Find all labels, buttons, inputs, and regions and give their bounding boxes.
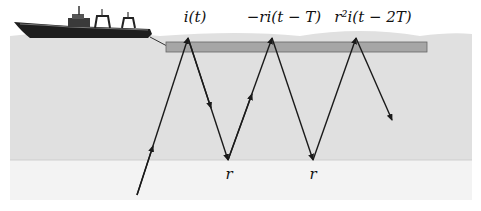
ship-icon bbox=[14, 6, 152, 38]
label-first-reflection: −ri(t − T) bbox=[247, 8, 321, 26]
label-incident: i(t) bbox=[184, 8, 207, 26]
label-second-reflection: r²i(t − 2T) bbox=[334, 8, 411, 26]
subsurface-layer bbox=[10, 160, 472, 200]
label-reflection-coeff-1: r bbox=[225, 165, 232, 183]
seismic-reflection-diagram bbox=[0, 0, 481, 211]
label-reflection-coeff-2: r bbox=[309, 165, 316, 183]
streamer-bar bbox=[166, 42, 427, 52]
